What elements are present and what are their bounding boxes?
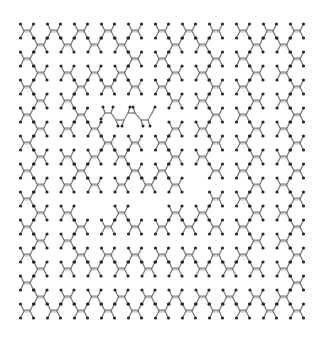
atom-dot [154, 232, 157, 235]
atom-dot [248, 162, 251, 165]
atom-dot [167, 260, 170, 263]
atom-dot [45, 120, 48, 123]
atom-dot [113, 204, 116, 207]
ethylene-unit [154, 302, 170, 319]
atom-dot [99, 50, 102, 53]
atom-dot [72, 148, 75, 151]
ethylene-unit [181, 22, 197, 39]
ethylene-unit [19, 50, 35, 67]
atom-dot [302, 78, 305, 81]
atom-dot [248, 288, 251, 291]
atom-dot [208, 302, 211, 305]
atom-dot [167, 78, 170, 81]
atom-dot [194, 260, 197, 263]
ethylene-unit [235, 190, 251, 207]
atom-dot [113, 148, 116, 151]
atom-dot [140, 162, 143, 165]
atom-dot [302, 246, 305, 249]
atom-dot [289, 134, 292, 137]
atom-dot [248, 260, 251, 263]
atom-dot [235, 134, 238, 137]
atom-dot [19, 36, 22, 39]
atom-dot [86, 92, 89, 95]
atom-dot [221, 176, 224, 179]
atom-dot [235, 64, 238, 67]
atom-dot [262, 22, 265, 25]
atom-dot [113, 50, 116, 53]
ethylene-unit [59, 36, 75, 53]
atom-dot [19, 22, 22, 25]
atom-dot [127, 302, 130, 305]
atom-dot [86, 120, 89, 123]
atom-dot [207, 288, 210, 291]
ethylene-unit [208, 190, 224, 207]
atom-dot [302, 134, 305, 137]
atom-dot [73, 78, 76, 81]
atom-dot [140, 260, 143, 263]
ethylene-unit [86, 120, 102, 137]
atom-dot [126, 190, 129, 193]
atom-dot [194, 232, 197, 235]
ethylene-unit [289, 50, 305, 67]
atom-dot [127, 232, 130, 235]
ethylene-unit [208, 162, 224, 179]
atom-dot [59, 288, 62, 291]
ethylene-unit [32, 204, 48, 221]
ethylene-unit [275, 120, 291, 137]
atom-dot [45, 50, 48, 53]
atom-dot [19, 78, 22, 81]
atom-dot [194, 106, 197, 109]
atom-dot [248, 106, 251, 109]
ethylene-unit [140, 288, 156, 305]
ethylene-unit [154, 22, 170, 39]
atom-dot [32, 36, 35, 39]
atom-dot [127, 316, 130, 319]
atom-dot [32, 50, 35, 53]
atom-dot [113, 64, 116, 67]
atom-dot [153, 274, 156, 277]
atom-dot [167, 232, 170, 235]
atom-dot [302, 92, 305, 95]
ethylene-unit [289, 78, 305, 95]
atom-dot [167, 106, 170, 109]
atom-dot [72, 232, 75, 235]
atom-dot [126, 148, 129, 151]
atom-dot [302, 288, 305, 291]
ethylene-unit [154, 50, 170, 67]
atom-dot [248, 176, 251, 179]
atom-dot [288, 204, 291, 207]
ethylene-unit [167, 204, 183, 221]
atom-dot [261, 274, 264, 277]
atom-dot [288, 148, 291, 151]
atom-dot [261, 134, 264, 137]
ethylene-unit [32, 232, 48, 249]
ethylene-unit [275, 232, 291, 249]
atom-dot [275, 50, 278, 53]
atom-dot [140, 176, 143, 179]
ethylene-unit [19, 190, 35, 207]
ethylene-unit [167, 288, 183, 305]
atom-dot [180, 176, 183, 179]
atom-dot [32, 162, 35, 165]
atom-dot [127, 22, 130, 25]
ethylene-unit [19, 162, 35, 179]
atom-dot [302, 218, 305, 221]
atom-dot [302, 260, 305, 263]
atom-dot [72, 288, 75, 291]
ethylene-unit [248, 260, 264, 277]
ethylene-unit [86, 36, 102, 53]
ethylene-unit [86, 64, 102, 81]
atom-dot [221, 162, 224, 165]
atom-dot [45, 148, 48, 151]
ethylene-unit [19, 106, 35, 123]
atom-dot [72, 92, 75, 95]
atom-dot [302, 162, 305, 165]
ethylene-unit [289, 162, 305, 179]
atom-dot [126, 176, 129, 179]
atom-dot [102, 106, 105, 109]
atom-dot [127, 134, 130, 137]
atom-dot [140, 218, 143, 221]
atom-dot [154, 302, 157, 305]
ethylene-unit [235, 162, 251, 179]
atom-dot [19, 106, 22, 109]
